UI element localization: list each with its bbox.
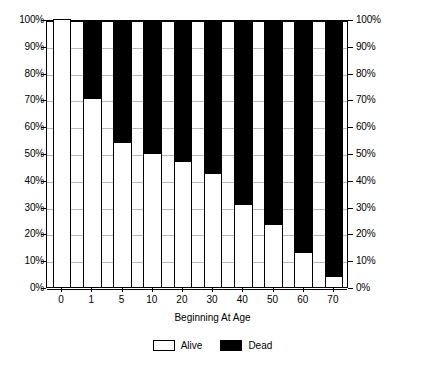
bar-column [83, 21, 102, 287]
bar-segment-dead [294, 21, 313, 254]
x-axis-tick-mark [91, 288, 92, 292]
y-axis-right-tick-label: 80% [356, 69, 398, 79]
bar-column [264, 21, 283, 287]
bar-segment-alive [113, 142, 132, 287]
x-axis-tick-mark [182, 288, 183, 292]
y-axis-left-tick-mark [41, 288, 46, 289]
y-axis-right-tick-label: 0% [356, 283, 398, 293]
x-axis-tick-mark [152, 288, 153, 292]
y-axis-right-tick-label: 50% [356, 149, 398, 159]
bar-segment-dead [143, 21, 162, 155]
y-axis-left-tick-label: 90% [4, 42, 44, 52]
x-axis-tick-mark [333, 288, 334, 292]
y-axis-left-tick-label: 40% [4, 176, 44, 186]
bar-segment-dead [234, 21, 253, 206]
plot-area [46, 20, 348, 288]
bar-segment-alive [83, 98, 102, 287]
bar-column [53, 21, 72, 287]
bar-segment-dead [204, 21, 223, 175]
bar-segment-dead [325, 21, 344, 278]
bar-segment-alive [325, 276, 344, 287]
y-axis-left-tick-label: 100% [4, 15, 44, 25]
y-axis-left-tick-label: 50% [4, 149, 44, 159]
y-axis-right-tick-label: 30% [356, 203, 398, 213]
y-axis-right-tick-mark [348, 181, 353, 182]
y-axis-right-tick-mark [348, 127, 353, 128]
bar-segment-alive [264, 224, 283, 287]
bar-segment-alive [234, 204, 253, 287]
bar-column [234, 21, 253, 287]
y-axis-right-tick-mark [348, 47, 353, 48]
y-axis-right-tick-mark [348, 261, 353, 262]
y-axis-left-tick-label: 70% [4, 95, 44, 105]
y-axis-right-tick-label: 70% [356, 95, 398, 105]
bar-segment-alive [143, 153, 162, 287]
bars-container [47, 21, 347, 287]
x-axis-tick-mark [242, 288, 243, 292]
x-axis-tick-label: 70 [313, 294, 353, 305]
white-square-icon [153, 340, 175, 351]
legend-label-alive: Alive [181, 340, 203, 351]
y-axis-left-tick-label: 30% [4, 203, 44, 213]
y-axis-left-tick-label: 20% [4, 229, 44, 239]
black-square-icon [220, 340, 242, 351]
y-axis-left-tick-label: 60% [4, 122, 44, 132]
y-axis-right-tick-mark [348, 234, 353, 235]
y-axis-right-tick-label: 100% [356, 15, 398, 25]
y-axis-right-tick-mark [348, 208, 353, 209]
x-axis-tick-mark [273, 288, 274, 292]
bar-segment-alive [294, 252, 313, 287]
legend-item-alive: Alive [153, 340, 203, 351]
x-axis-tick-mark [303, 288, 304, 292]
x-axis-tick-mark [61, 288, 62, 292]
x-axis-title: Beginning At Age [0, 312, 425, 324]
bar-segment-dead [83, 21, 102, 100]
y-axis-right-tick-mark [348, 100, 353, 101]
bar-segment-alive [53, 19, 72, 287]
chart-legend: Alive Dead [0, 340, 425, 351]
bar-segment-dead [264, 21, 283, 226]
bar-segment-alive [204, 173, 223, 287]
y-axis-right-tick-label: 40% [356, 176, 398, 186]
bar-column [204, 21, 223, 287]
y-axis-right-tick-mark [348, 288, 353, 289]
legend-label-dead: Dead [248, 340, 272, 351]
x-axis-tick-mark [212, 288, 213, 292]
y-axis-left-tick-label: 10% [4, 256, 44, 266]
y-axis-right-tick-mark [348, 154, 353, 155]
bar-segment-dead [113, 21, 132, 144]
bar-column [294, 21, 313, 287]
y-axis-left-tick-label: 80% [4, 69, 44, 79]
bar-segment-dead [174, 21, 193, 163]
x-axis-tick-mark [122, 288, 123, 292]
y-axis-right-tick-label: 90% [356, 42, 398, 52]
y-axis-right-tick-label: 60% [356, 122, 398, 132]
bar-column [174, 21, 193, 287]
y-axis-right-tick-label: 20% [356, 229, 398, 239]
stacked-bar-chart: 0%10%20%30%40%50%60%70%80%90%100% 0%10%2… [0, 0, 425, 371]
bar-segment-alive [174, 161, 193, 287]
bar-column [143, 21, 162, 287]
bar-column [325, 21, 344, 287]
y-axis-right-tick-mark [348, 20, 353, 21]
y-axis-left-tick-label: 0% [4, 283, 44, 293]
bar-column [113, 21, 132, 287]
legend-item-dead: Dead [220, 340, 272, 351]
y-axis-right-tick-label: 10% [356, 256, 398, 266]
y-axis-right-tick-mark [348, 74, 353, 75]
